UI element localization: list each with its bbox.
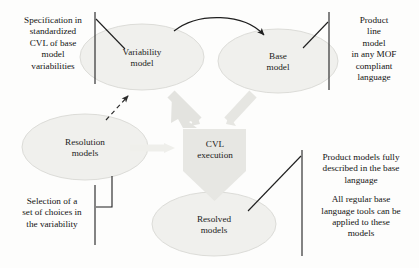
annotation-spec-line-3: CVL of base [13, 38, 93, 49]
annotation-product-models-b1-line-2: described in the base [306, 163, 416, 174]
annotation-product-models-b2-line-1: All regular base [306, 194, 416, 205]
annotation-spec-line-1: Specification in [13, 15, 93, 26]
connector-resolution-to-cvl [130, 143, 175, 153]
node-cvl-execution-shape [183, 129, 246, 201]
annotation-product-models-b2-line-3: applied to these [306, 217, 416, 228]
annotation-product-line-line-1: Product [333, 15, 415, 26]
annotation-selection-line-2: set of choices in [10, 207, 94, 218]
annotation-spec-line-4: model [13, 49, 93, 60]
annotation-product-line: Product line model in any MOF compliant … [333, 15, 415, 83]
node-base-model [218, 29, 338, 93]
annotation-spec-line-5: variabilities [13, 61, 93, 72]
diagram-canvas: Variability model Base model Resolution … [0, 0, 419, 268]
annotation-product-models-b2-line-2: language tools can be [306, 206, 416, 217]
connector-variability-to-cvl [171, 94, 200, 128]
annotation-product-models-b1-line-1: Product models fully [306, 152, 416, 163]
annotation-product-line-line-4: in any MOF [333, 49, 415, 60]
annotation-selection-line-3: the variability [10, 219, 94, 230]
annotation-selection-line-1: Selection of a [10, 196, 94, 207]
annotation-product-line-line-5: compliant [333, 61, 415, 72]
node-variability-model [80, 24, 204, 90]
annotation-product-models-b1-line-3: language [306, 175, 416, 186]
leader-selection [95, 176, 112, 245]
annotation-product-models: Product models fully described in the ba… [306, 152, 416, 240]
annotation-product-line-line-2: line [333, 26, 415, 37]
connector-base-to-cvl [226, 94, 253, 126]
node-resolution-models [22, 114, 148, 180]
annotation-product-line-line-3: model [333, 38, 415, 49]
annotation-selection: Selection of a set of choices in the var… [10, 196, 94, 230]
annotation-product-models-b2-line-4: models [306, 228, 416, 239]
annotation-spec: Specification in standardized CVL of bas… [13, 15, 93, 72]
annotation-spec-line-2: standardized [13, 26, 93, 37]
annotation-product-models-block2: All regular base language tools can be a… [306, 194, 416, 240]
annotation-product-models-spacer [306, 186, 416, 194]
annotation-product-models-block1: Product models fully described in the ba… [306, 152, 416, 186]
annotation-product-line-line-6: language [333, 72, 415, 83]
